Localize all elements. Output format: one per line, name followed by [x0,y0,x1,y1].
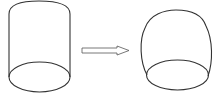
arrow-icon [82,46,129,55]
original-cylinder [9,1,70,92]
cylinder-bottom-ellipse [9,62,70,92]
transform-arrow [82,46,129,55]
barrel-bottom-ellipse [147,60,209,90]
cylinder-top-arc [9,1,70,14]
deformed-barrel [141,10,211,90]
diagram-canvas [0,0,216,104]
